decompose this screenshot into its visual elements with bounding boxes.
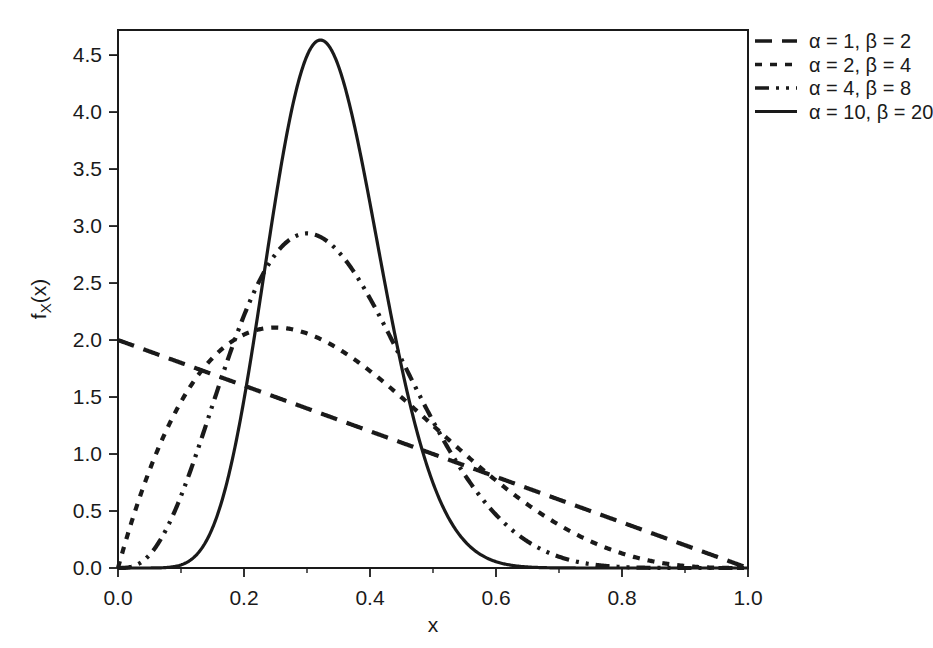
x-tick-label: 0.8	[607, 586, 636, 609]
y-tick-label: 4.0	[73, 100, 102, 123]
y-axis-title-tail: (x)	[27, 279, 50, 304]
y-tick-label: 0.0	[73, 556, 102, 579]
x-axis-tick-labels: 0.00.20.40.60.81.0	[103, 586, 762, 609]
y-axis-title-subscript: X	[37, 303, 54, 313]
x-tick-label: 0.2	[229, 586, 258, 609]
y-tick-label: 1.5	[73, 385, 102, 408]
beta-distribution-figure: 0.00.20.40.60.81.0 0.00.51.01.52.02.53.0…	[0, 0, 933, 648]
chart-svg: 0.00.20.40.60.81.0 0.00.51.01.52.02.53.0…	[0, 0, 933, 648]
y-tick-label: 4.5	[73, 43, 102, 66]
x-tick-label: 0.0	[103, 586, 132, 609]
legend-label-4: α = 10, β = 20	[809, 101, 933, 123]
y-tick-label: 2.5	[73, 271, 102, 294]
x-tick-label: 1.0	[733, 586, 762, 609]
y-tick-label: 2.0	[73, 328, 102, 351]
legend-label-3: α = 4, β = 8	[809, 77, 911, 99]
x-tick-label: 0.6	[481, 586, 510, 609]
curve-alpha-10-beta-20	[118, 40, 748, 568]
x-axis-title: x	[428, 613, 439, 636]
y-tick-label: 3.5	[73, 157, 102, 180]
y-axis-title: fX(x)	[27, 279, 54, 319]
legend-label-1: α = 1, β = 2	[809, 30, 911, 52]
y-axis-tick-labels: 0.00.51.01.52.02.53.03.54.04.5	[73, 43, 102, 579]
chart-legend: α = 1, β = 2α = 2, β = 4α = 4, β = 8α = …	[755, 30, 933, 123]
x-tick-label: 0.4	[355, 586, 385, 609]
y-tick-label: 3.0	[73, 214, 102, 237]
legend-label-2: α = 2, β = 4	[809, 54, 911, 76]
data-curves	[118, 40, 748, 568]
y-axis-ticks	[109, 55, 118, 568]
y-axis-title-group: fX(x)	[27, 279, 54, 319]
y-tick-label: 0.5	[73, 499, 102, 522]
y-tick-label: 1.0	[73, 442, 102, 465]
x-axis-title-group: x	[428, 613, 439, 636]
curve-alpha-4-beta-8	[118, 233, 748, 568]
curve-alpha-1-beta-2	[118, 340, 748, 568]
